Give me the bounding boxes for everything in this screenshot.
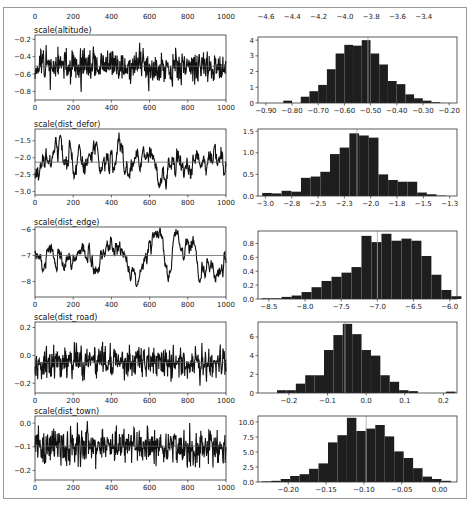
x-tick-label: −0.1 [319,397,336,405]
x-tick-label: −0.20 [438,107,459,115]
histogram-bar [332,277,342,299]
histogram-4: −0.20−0.15−0.10−0.050.000.02.55.07.510.0 [238,416,457,494]
histogram-bar [333,335,342,393]
histogram-bar [369,138,379,196]
x-tick-label: −6.5 [405,303,422,311]
x-tick-label: 1000 [217,484,235,492]
histogram-bar [315,375,324,393]
y-tick-label: −2.5 [14,171,31,179]
x-tick-label: 400 [105,484,118,492]
x-tick-label: 800 [181,104,194,112]
trace-line [35,43,226,92]
x-tick-label: −0.30 [412,107,433,115]
x-tick-label: 600 [143,301,156,309]
x-tick-label: 200 [67,104,80,112]
histogram-bar [349,133,359,196]
x-tick-label: −0.20 [278,486,299,494]
x-tick-label: −2.0 [362,200,379,208]
histogram-bar [411,241,421,299]
histogram-bar [305,375,314,393]
y-tick-label: 1.0 [243,149,254,157]
y-tick-label: −0.4 [14,53,32,61]
x-tick-label: −8.0 [297,303,314,311]
trace-plot-4: 02004006008001000−0.2−0.10.0scale(dist_t… [14,407,235,492]
histogram-bar [319,463,328,482]
histogram-bar [343,324,352,393]
x-tick-label: 200 [67,199,80,207]
x-tick-label: −6.0 [441,303,458,311]
trace-plot-1: 02004006008001000−3.0−2.5−2.0−1.5scale(d… [14,120,235,207]
y-tick-label: −7 [21,252,31,260]
histogram-bar [327,69,336,103]
subplot-title: scale(altitude) [34,26,92,35]
histogram-bar [286,390,295,393]
histogram-bar [291,192,301,196]
histogram-bar [421,256,431,299]
histogram-3: −0.2−0.10.00.10.20246 [250,322,457,405]
top-x-tick-label: 0 [33,13,37,21]
histogram-bar [320,172,330,196]
y-tick-label: −0.8 [14,88,31,96]
histogram-bar [399,390,408,393]
x-tick-label: 800 [181,484,194,492]
x-tick-label: 800 [181,397,194,405]
histogram-bar [352,334,361,393]
subplot-title: scale(dist_road) [34,313,97,322]
x-tick-label: −0.05 [391,486,412,494]
trace-and-histogram-grid: 02004006008001000−0.8−0.6−0.4−0.2scale(a… [0,0,472,506]
x-tick-label: 0.1 [399,397,410,405]
x-tick-label: 1000 [217,199,235,207]
x-tick-label: 1000 [217,104,235,112]
top-x-tick-label: 200 [67,13,80,21]
y-tick-label: 6 [250,333,255,341]
y-tick-label: 4 [250,352,255,360]
x-tick-label: 200 [67,484,80,492]
histogram-bar [404,458,413,482]
x-tick-label: −0.70 [307,107,328,115]
histogram-bar [290,476,299,482]
top-x-tick-label: −3.4 [415,13,433,21]
y-tick-label: −2.0 [14,154,31,162]
x-tick-label: −0.60 [334,107,355,115]
x-tick-label: 600 [143,397,156,405]
histogram-bar [337,435,346,482]
x-tick-label: −1.8 [388,200,405,208]
histogram-bar [451,296,461,299]
y-tick-label: 0 [250,100,254,108]
histogram-bar [362,350,371,393]
histogram-0: −0.90−0.80−0.70−0.60−0.50−0.40−0.30−0.20… [250,37,460,115]
histogram-bar [394,451,403,482]
histogram-bar [296,384,305,393]
histogram-bar [301,97,310,103]
histogram-bar [330,154,340,196]
histogram-bar [282,191,292,196]
histogram-2: −8.5−8.0−7.5−7.0−6.5−6.00.00.20.40.60.8 [243,231,461,311]
histogram-bar [300,474,309,482]
histogram-bar [371,356,380,393]
histogram-bar [380,375,389,393]
y-tick-label: 0.8 [243,240,254,248]
x-tick-label: 0.00 [432,486,448,494]
x-tick-label: 0 [33,199,37,207]
x-tick-label: −0.15 [315,486,336,494]
y-tick-label: −8 [21,278,31,286]
histogram-bar [324,350,333,393]
histogram-bar [385,436,394,482]
histogram-bar [322,281,332,299]
y-tick-label: 7.5 [243,434,254,442]
x-tick-label: 800 [181,301,194,309]
histogram-bar [388,81,397,103]
x-tick-label: −2.8 [283,200,300,208]
trace-plot-0: 02004006008001000−0.8−0.6−0.4−0.2scale(a… [14,26,235,112]
x-tick-label: −1.5 [415,200,432,208]
histogram-bar [340,148,350,196]
x-tick-label: −8.5 [260,303,277,311]
top-x-tick-label: −3.8 [363,13,380,21]
x-tick-label: −2.5 [310,200,327,208]
x-tick-label: −3.0 [257,200,274,208]
y-tick-label: −3.0 [14,188,31,196]
histogram-bar [408,182,418,196]
top-x-tick-label: −4.0 [336,13,353,21]
y-tick-label: 3 [250,52,254,60]
histogram-bar [441,290,451,299]
